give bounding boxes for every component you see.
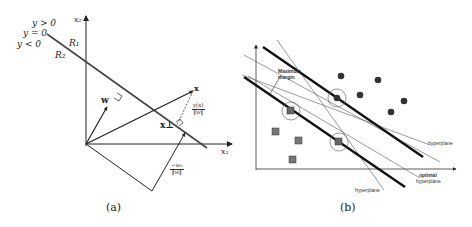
- label-distance-fraction: y(x) ‖w‖: [192, 103, 205, 115]
- label-x2-axis: x₂: [74, 16, 82, 24]
- margin-line-upper: [263, 47, 423, 157]
- distance-dashed: [177, 91, 193, 125]
- label-x1-axis: x₁: [221, 148, 229, 156]
- class-circle-point: [338, 73, 345, 80]
- label-max-margin-2: margin: [278, 75, 295, 80]
- hyperplane-4: [242, 75, 430, 145]
- class-square-point: [335, 138, 342, 145]
- margin-line-lower: [244, 77, 405, 187]
- label-region-2: R₂: [55, 51, 65, 60]
- label-bias-fraction: −w₀ ‖w‖: [170, 163, 184, 175]
- distance-denominator: ‖w‖: [192, 110, 205, 116]
- class-square-point: [272, 128, 279, 135]
- label-hyperplane-bottom: hyperplane: [355, 188, 380, 193]
- panel-b-diagram: [242, 40, 456, 190]
- class-circle-point: [334, 95, 341, 102]
- class-circle-point: [388, 109, 395, 116]
- caption-a: (a): [106, 202, 121, 213]
- label-y-equal: y = 0: [23, 29, 47, 38]
- label-x-vector: x: [194, 84, 199, 92]
- hyperplane-optimal: [248, 76, 420, 178]
- class-circle-point: [401, 98, 408, 105]
- hyperplane-steep: [277, 40, 384, 190]
- right-angle-marker: [114, 93, 122, 101]
- decision-boundary: [47, 34, 207, 148]
- caption-b: (b): [340, 202, 356, 213]
- label-optimal-2: hyperplane: [416, 179, 441, 184]
- hyperplane-shallow: [244, 55, 440, 162]
- class-square-point: [295, 137, 302, 144]
- bias-line: [86, 144, 152, 191]
- class-circle-point: [357, 92, 364, 99]
- label-x-perp: x⊥: [160, 121, 174, 130]
- label-y-greater: y > 0: [32, 19, 56, 28]
- label-hyperplane-right: hyperplane: [428, 141, 453, 146]
- class-square-point: [287, 107, 294, 114]
- bias-denominator: ‖w‖: [170, 170, 184, 176]
- class-circle-point: [375, 77, 382, 84]
- label-region-1: R₁: [69, 39, 79, 48]
- class-square-point: [289, 156, 296, 163]
- label-y-less: y < 0: [17, 40, 41, 49]
- label-w-vector: w: [101, 96, 109, 105]
- figure-canvas: [0, 0, 472, 227]
